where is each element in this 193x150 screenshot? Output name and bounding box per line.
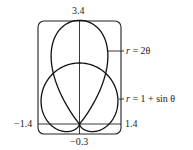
tick-label-left: −1.4 bbox=[14, 119, 32, 129]
tick-label-right: 1.4 bbox=[125, 119, 138, 129]
tick-label-bottom: −0.3 bbox=[70, 137, 88, 147]
tick-label-top: 3.4 bbox=[72, 6, 85, 16]
annotation-r-2theta: r = 2θ bbox=[126, 46, 150, 56]
annotation-r-1-plus-sin: r = 1 + sin θ bbox=[126, 94, 175, 104]
